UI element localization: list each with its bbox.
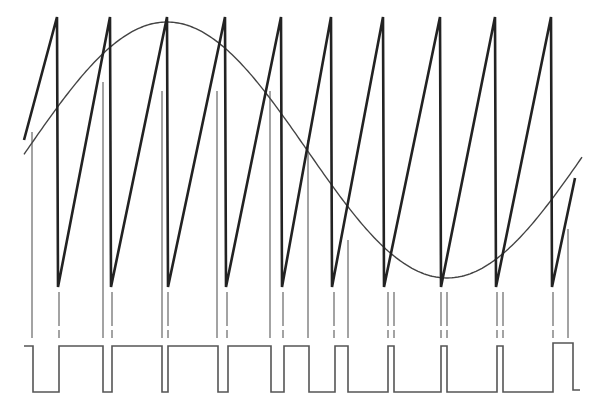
crossing-marker-lines — [32, 82, 568, 338]
pwm-output-square-wave — [24, 343, 580, 392]
pwm-waveform-diagram — [0, 0, 592, 405]
sine-reference-wave — [24, 22, 582, 278]
sawtooth-carrier-wave — [24, 17, 575, 287]
